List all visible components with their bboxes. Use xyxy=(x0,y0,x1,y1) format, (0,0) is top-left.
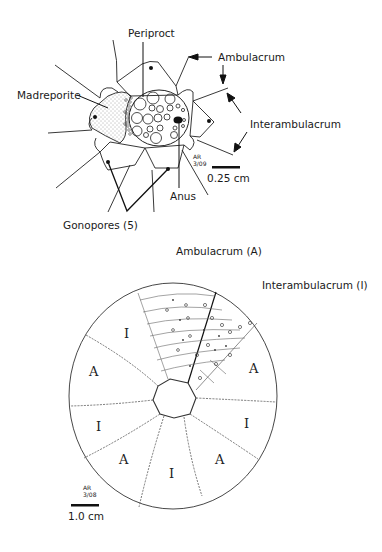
region-mark-i: I xyxy=(96,419,101,434)
scale-label-bottom: 1.0 cm xyxy=(68,510,104,522)
region-mark-i: I xyxy=(124,326,129,341)
apical-system xyxy=(153,379,196,418)
region-mark-a: A xyxy=(119,452,128,467)
scale-bar-bottom xyxy=(71,504,99,507)
region-mark-a: A xyxy=(249,361,258,376)
interambulacrum-i-label: Interambulacrum (I) xyxy=(262,279,368,291)
test-drawing xyxy=(0,0,382,552)
artist-signature-bottom: AR 3/08 xyxy=(83,484,97,498)
region-mark-a: A xyxy=(89,364,98,379)
region-mark-i: I xyxy=(169,466,174,481)
region-mark-a: A xyxy=(215,452,224,467)
ambulacrum-a-label: Ambulacrum (A) xyxy=(176,245,262,257)
plate-detail xyxy=(138,292,257,390)
region-mark-i: I xyxy=(244,416,249,431)
